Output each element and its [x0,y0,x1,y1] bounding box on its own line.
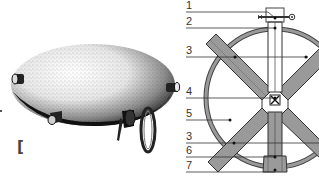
diagonal-bar-lower-right [278,108,319,160]
label-3-lower: 3 [186,131,192,142]
label-6: 6 [186,145,192,156]
label-1: 1 [186,0,192,11]
label-3-upper: 3 [186,45,192,56]
diagonal-bar-upper-right [278,34,319,100]
label-2: 2 [186,16,192,27]
cross-section-diagram [0,0,319,176]
label-7: 7 [186,160,192,171]
label-5: 5 [186,108,192,119]
top-pin [258,8,295,22]
label-4: 4 [186,86,192,97]
figure: [ [0,0,319,176]
